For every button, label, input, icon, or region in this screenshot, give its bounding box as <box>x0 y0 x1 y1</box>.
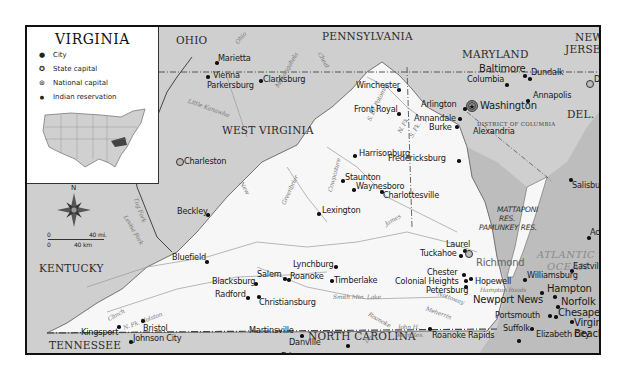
city-label-winchester: Winchester <box>356 81 400 89</box>
legend-city: ●City <box>37 51 67 59</box>
city-label-portsmouth: Portsmouth <box>495 311 540 319</box>
city-dot-annapolis <box>526 99 530 103</box>
city-label-lynchburg: Lynchburg <box>293 260 334 268</box>
state-label-kentucky: KENTUCKY <box>39 263 104 274</box>
city-label-beckley: Beckley <box>177 207 208 215</box>
city-dot-radford <box>246 296 250 300</box>
city-dot-roanoke-rapids <box>428 327 432 331</box>
city-label-blacksburg: Blacksburg <box>212 277 255 285</box>
city-label-laurel: Laurel <box>446 240 470 248</box>
city-dot-eden <box>299 353 303 355</box>
state-label-pennsylvania: PENNSYLVANIA <box>322 31 413 42</box>
city-label-salisbury: Salisbury <box>572 181 601 189</box>
city-label-lexington: Lexington <box>322 206 360 214</box>
city-label-annandale: Annandale <box>414 114 456 122</box>
city-label-christiansburg: Christiansburg <box>259 298 316 306</box>
city-label-johnson-city: Johnson City <box>133 334 182 342</box>
city-label-parkersburg: Parkersburg <box>207 81 254 89</box>
city-dot-fredericksburg <box>457 159 461 163</box>
city-label-tuckahoe: Tuckahoe <box>420 249 457 257</box>
city-label-baltimore: Baltimore <box>479 64 526 74</box>
city-dot-lynchburg <box>334 265 338 269</box>
compass-rose-icon <box>57 193 91 227</box>
us-inset-map <box>41 107 149 177</box>
city-dot-burke <box>455 125 459 129</box>
city-dot-elizabeth-city <box>517 339 521 343</box>
city-dot-suffolk <box>530 327 534 331</box>
map-frame: VIRGINIA ●City ✪State capital ⊛National … <box>25 25 601 355</box>
city-dot-staunton <box>341 179 345 183</box>
city-dot-virginia-beach <box>570 320 574 324</box>
national-capital-icon: ⊛ <box>37 79 47 87</box>
city-dot-vienna <box>206 75 210 79</box>
city-dot-chester <box>462 273 466 277</box>
city-label-fredericksburg: Fredericksburg <box>388 154 446 162</box>
city-dot-icon: ● <box>37 51 47 59</box>
city-label-roanoke: Roanoke <box>290 272 324 280</box>
city-dot-williamsburg <box>523 278 527 282</box>
city-label-radford: Radford <box>215 290 246 298</box>
city-dot-colonial-heights <box>464 279 468 283</box>
city-dot-chesapeake <box>554 315 558 319</box>
city-label-kingsport: Kingsport <box>81 328 118 336</box>
city-label-clarksburg: Clarksburg <box>263 75 305 83</box>
city-label-colonial-heights: Colonial Heights <box>395 277 459 285</box>
state-label-ohio: OHIO <box>176 35 207 46</box>
mattaponi-res-label-2: RES. <box>499 215 515 223</box>
state-capital-icon: ✪ <box>37 65 47 73</box>
city-label-richmond: Richmond <box>476 258 525 268</box>
city-label-suffolk: Suffolk <box>503 324 530 332</box>
state-capital-icon-dover <box>586 80 594 88</box>
city-label-hopewell: Hopewell <box>475 277 511 285</box>
city-dot-columbia <box>505 83 509 87</box>
city-label-arlington: Arlington <box>421 100 457 108</box>
city-dot-annandale <box>458 117 462 121</box>
river-label-kerr-2: Kerr Res. <box>397 332 424 338</box>
city-label-dover: Dover <box>594 75 601 83</box>
state-label-tennessee: TENNESSEE <box>49 340 121 351</box>
city-label-charlottesville: Charlottesville <box>383 191 439 199</box>
city-dot-dundalk <box>528 77 532 81</box>
city-dot-tuckahoe <box>459 254 463 258</box>
city-label-bluefield: Bluefield <box>172 253 206 261</box>
national-capital-icon-washington: ★ <box>466 100 478 112</box>
city-dot-harrisonburg <box>353 154 357 158</box>
city-label-martinsville: Martinsville <box>249 326 294 334</box>
legend-title: VIRGINIA <box>55 31 130 47</box>
city-label-bristol: Bristol <box>143 324 168 332</box>
city-label-eden: Eden <box>281 352 301 355</box>
city-dot-baltimore <box>523 74 527 78</box>
legend-indian-reservation: ●Indian reservation <box>37 93 117 101</box>
city-label-hampton: Hampton <box>547 284 592 294</box>
city-label-roanoke-rapids: Roanoke Rapids <box>432 331 494 339</box>
city-dot-danville <box>346 344 350 348</box>
city-dot-hopewell <box>469 277 473 281</box>
svg-text:★: ★ <box>469 103 475 111</box>
city-dot-portsmouth <box>548 314 552 318</box>
city-label-williamsburg: Williamsburg <box>527 271 578 279</box>
state-label-west-virginia: WEST VIRGINIA <box>222 125 314 136</box>
city-dot-waynesboro <box>352 188 356 192</box>
city-label-salem: Salem <box>257 270 282 278</box>
state-capital-icon-richmond <box>465 250 473 258</box>
city-label-charleston: Charleston <box>184 157 226 165</box>
city-dot-hampton <box>553 295 557 299</box>
city-dot-timberlake <box>330 279 334 283</box>
legend-national-capital: ⊛National capital <box>37 79 108 87</box>
city-label-petersburg: Petersburg <box>426 286 468 294</box>
city-label-dundalk: Dundalk <box>531 68 564 76</box>
city-dot-clarksburg <box>259 79 263 83</box>
city-label-danville: Danville <box>289 338 321 346</box>
city-label-waynesboro: Waynesboro <box>356 182 404 190</box>
city-label-timberlake: Timberlake <box>334 276 377 284</box>
river-label-kerr-1: John H. <box>398 324 419 330</box>
city-label-virginia-beach-1: Virginia <box>574 318 601 328</box>
city-dot-johnson-city <box>129 340 133 344</box>
city-label-newport-news: Newport News <box>473 295 543 305</box>
compass-north-label: N <box>71 185 76 192</box>
city-label-columbia: Columbia <box>467 75 504 83</box>
city-dot-salem <box>283 277 287 281</box>
river-label-lake-gaston: Lake Gaston <box>427 354 463 355</box>
state-label-maryland: MARYLAND <box>462 49 529 60</box>
city-label-accomac: Accomac <box>590 228 601 236</box>
